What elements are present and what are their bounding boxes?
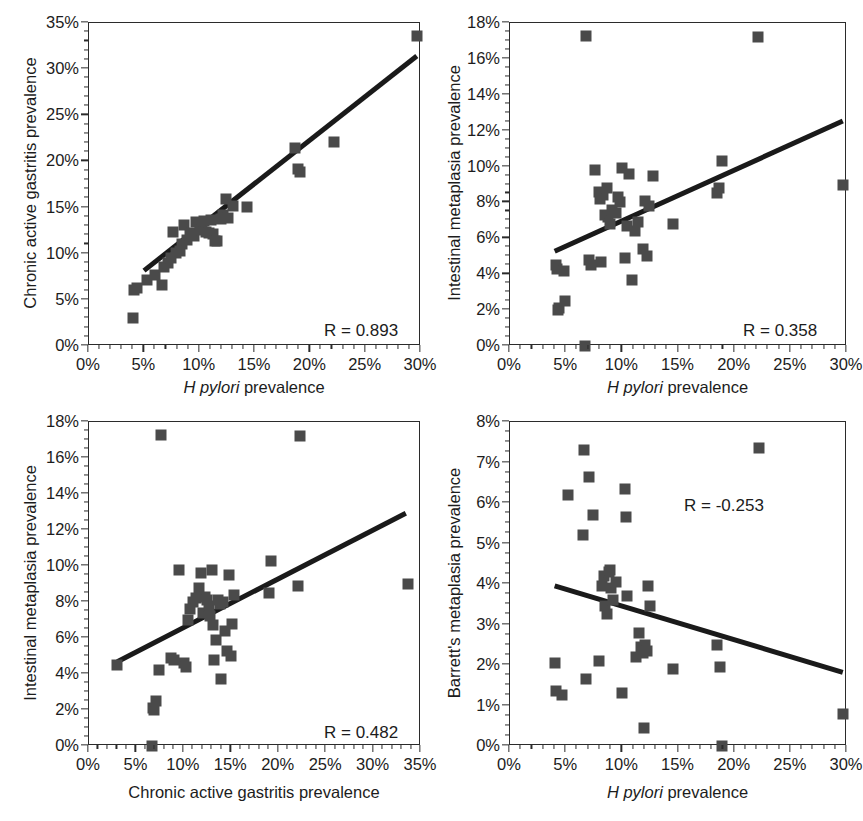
x-axis-minor-tick xyxy=(276,345,277,349)
data-point xyxy=(638,722,649,733)
data-point xyxy=(295,166,306,177)
regression-line xyxy=(89,422,419,744)
data-point xyxy=(558,265,569,276)
x-axis-tick-label: 0% xyxy=(76,355,100,374)
correlation-annotation: R = 0.893 xyxy=(324,321,398,341)
y-axis-minor-tick xyxy=(84,197,88,198)
x-axis-tick-label: 15% xyxy=(661,755,694,774)
y-axis-title: Intestinal metaplasia prevalence xyxy=(445,65,464,301)
x-axis-tick-label: 0% xyxy=(497,755,521,774)
data-point xyxy=(590,165,601,176)
y-axis-tick-label: 2% xyxy=(445,300,500,319)
y-axis-major-tick xyxy=(81,636,88,637)
x-axis-minor-tick xyxy=(711,345,712,349)
y-axis-minor-tick xyxy=(505,300,509,301)
regression-line xyxy=(89,23,419,344)
y-axis-major-tick xyxy=(502,201,509,202)
y-axis-tick-label: 8% xyxy=(445,412,500,431)
panel-a-chronic-gastritis-vs-hpylori: 0%5%10%15%20%25%30%0%5%10%15%20%25%30%35… xyxy=(0,0,426,400)
x-axis-minor-tick xyxy=(778,745,779,749)
x-axis-major-tick xyxy=(621,745,622,752)
x-axis-minor-tick xyxy=(363,745,364,749)
y-axis-minor-tick xyxy=(505,246,509,247)
x-axis-title: Chronic active gastritis prevalence xyxy=(128,783,379,802)
plot-frame xyxy=(509,22,846,345)
x-axis-minor-tick xyxy=(132,345,133,349)
x-axis-minor-tick xyxy=(699,745,700,749)
data-point xyxy=(583,471,594,482)
x-axis-title-rest: Chronic active gastritis prevalence xyxy=(128,783,379,801)
data-point xyxy=(195,568,206,579)
y-axis-major-tick xyxy=(81,252,88,253)
x-axis-tick-label: 5% xyxy=(553,355,577,374)
x-axis-title-rest: prevalence xyxy=(663,378,748,396)
x-axis-major-tick xyxy=(733,745,734,752)
y-axis-major-tick xyxy=(81,456,88,457)
y-axis-major-tick xyxy=(502,21,509,22)
y-axis-minor-tick xyxy=(84,735,88,736)
y-axis-major-tick xyxy=(502,57,509,58)
y-axis-minor-tick xyxy=(84,40,88,41)
x-axis-tick-label: 15% xyxy=(237,355,270,374)
data-point xyxy=(615,197,626,208)
x-axis-major-tick xyxy=(87,745,88,752)
data-point xyxy=(578,530,589,541)
y-axis-minor-tick xyxy=(505,572,509,573)
x-axis-minor-tick xyxy=(163,745,164,749)
y-axis-tick-label: 0% xyxy=(445,336,500,355)
y-axis-major-tick xyxy=(81,67,88,68)
plot-frame xyxy=(88,22,420,345)
x-axis-minor-tick xyxy=(231,345,232,349)
data-point xyxy=(837,179,848,190)
x-axis-minor-tick xyxy=(176,345,177,349)
x-axis-title-species: H pylori xyxy=(607,783,663,801)
y-axis-minor-tick xyxy=(84,169,88,170)
x-axis-minor-tick xyxy=(287,345,288,349)
y-axis-major-tick xyxy=(81,298,88,299)
data-point xyxy=(217,597,228,608)
y-axis-major-tick xyxy=(81,344,88,345)
x-axis-minor-tick xyxy=(110,345,111,349)
y-axis-major-tick xyxy=(81,114,88,115)
x-axis-minor-tick xyxy=(298,345,299,349)
y-axis-minor-tick xyxy=(84,573,88,574)
x-axis-tick-label: 25% xyxy=(348,355,381,374)
x-axis-minor-tick xyxy=(287,745,288,749)
y-axis-minor-tick xyxy=(84,58,88,59)
y-axis-tick-label: 16% xyxy=(24,448,79,467)
x-axis-title: H pylori prevalence xyxy=(607,783,748,802)
x-axis-tick-label: 15% xyxy=(661,355,694,374)
x-axis-tick-label: 20% xyxy=(261,755,294,774)
x-axis-minor-tick xyxy=(610,745,611,749)
data-point xyxy=(644,201,655,212)
data-point xyxy=(581,30,592,41)
data-point xyxy=(226,651,237,662)
y-axis-major-tick xyxy=(81,420,88,421)
x-axis-minor-tick xyxy=(353,745,354,749)
data-point xyxy=(601,609,612,620)
x-axis-major-tick xyxy=(789,345,790,352)
data-point xyxy=(215,674,226,685)
y-axis-minor-tick xyxy=(505,552,509,553)
y-axis-minor-tick xyxy=(505,138,509,139)
x-axis-minor-tick xyxy=(173,745,174,749)
y-axis-major-tick xyxy=(502,542,509,543)
data-point xyxy=(294,431,305,442)
x-axis-tick-label: 5% xyxy=(553,755,577,774)
y-axis-minor-tick xyxy=(84,618,88,619)
data-point xyxy=(579,445,590,456)
x-axis-minor-tick xyxy=(744,345,745,349)
x-axis-minor-tick xyxy=(823,745,824,749)
x-axis-minor-tick xyxy=(722,345,723,349)
y-axis-minor-tick xyxy=(84,280,88,281)
y-axis-title: Barrett's metaplasia prevalence xyxy=(445,468,464,699)
plot-area xyxy=(89,422,419,744)
data-point xyxy=(157,280,168,291)
data-point xyxy=(227,618,238,629)
x-axis-minor-tick xyxy=(576,745,577,749)
x-axis-tick-label: 25% xyxy=(773,755,806,774)
x-axis-minor-tick xyxy=(400,745,401,749)
data-point xyxy=(212,235,223,246)
data-point xyxy=(754,443,765,454)
y-axis-major-tick xyxy=(502,663,509,664)
